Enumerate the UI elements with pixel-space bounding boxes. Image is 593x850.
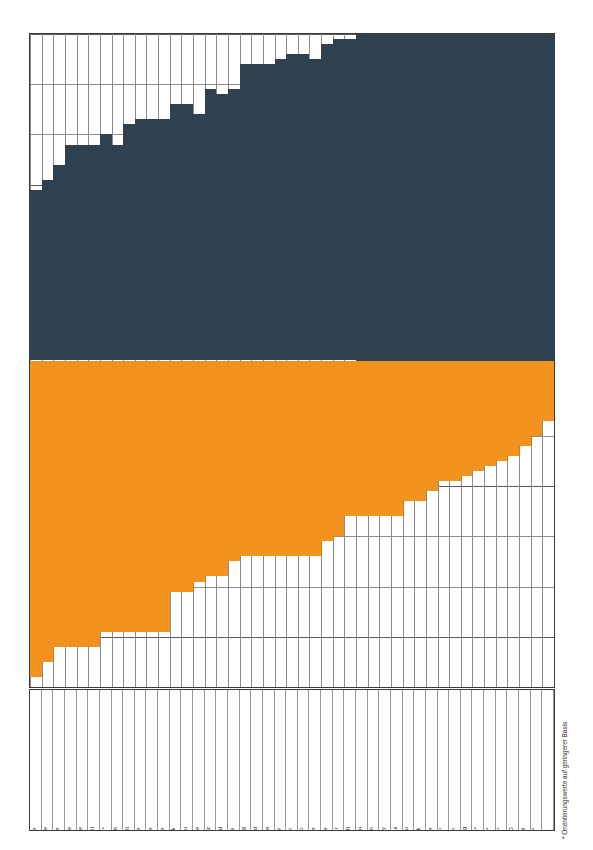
bar-column: [507, 34, 519, 687]
bar-segment-upper: [65, 145, 77, 361]
bar-segment-upper: [391, 33, 403, 361]
bar-column: [484, 34, 496, 687]
category-label-cell: Echo der Frau: [193, 690, 205, 830]
category-label-cell: Gong: [472, 690, 484, 830]
category-label-cell: Popcorn*: [496, 690, 508, 830]
category-label: Sport Illustrierte*: [473, 827, 484, 831]
bar-segment-lower: [100, 361, 112, 632]
bar-column: [542, 34, 554, 687]
category-label: Penthouse: [427, 827, 438, 831]
category-label-cell: Sport Illustrierte*: [484, 690, 496, 830]
category-label: Frau mit Herz: [206, 827, 217, 831]
bar-segment-lower: [391, 361, 403, 517]
bar-segment-upper: [321, 44, 333, 360]
bar-segment-upper: [77, 145, 89, 361]
category-label-cell: Bild der Wissenschaft: [356, 690, 368, 830]
category-label-cell: Ein Herz für Tiere: [88, 690, 100, 830]
category-label: Freizeit Revue: [54, 827, 65, 831]
category-label: Neue Revue: [159, 827, 170, 831]
category-label: Rallye Racing*: [101, 827, 112, 831]
category-label: Musik Express/Sounds*: [532, 827, 543, 831]
bar-column: [333, 34, 345, 687]
bar-segment-lower: [181, 361, 193, 592]
bar-segment-upper: [263, 64, 275, 360]
bar-segment-lower: [53, 361, 65, 647]
category-label: Playboy: [380, 827, 391, 831]
bar-column: [123, 34, 135, 687]
bar-segment-lower: [542, 361, 554, 421]
bar-column: [240, 34, 252, 687]
category-label-cell: Das Neue: [42, 690, 54, 830]
bar-segment-upper: [228, 89, 240, 360]
category-label: Bildwoche: [310, 827, 321, 831]
category-label: Das Goldene Blatt: [113, 827, 124, 831]
category-label-cell: Hörzu: [414, 690, 426, 830]
category-label-cell: Wochenend: [228, 690, 240, 830]
category-label: P.M. Magazin: [450, 827, 461, 831]
bar-segment-upper: [461, 33, 473, 361]
bar-segment-lower: [77, 361, 89, 647]
category-label-cell: Quick: [181, 690, 193, 830]
bar-segment-upper: [496, 33, 508, 361]
bar-column: [472, 34, 484, 687]
bar-column: [53, 34, 65, 687]
bar-segment-upper: [193, 114, 205, 360]
bar-segment-upper: [251, 64, 263, 360]
category-label-cell: Neue Welt: [135, 690, 147, 830]
category-label-cell: Das Beste: [146, 690, 158, 830]
bar-segment-upper: [170, 104, 182, 360]
category-label-cell: Penthouse: [438, 690, 450, 830]
bar-segment-upper: [379, 33, 391, 361]
bar-segment-upper: [53, 165, 65, 361]
category-label: Funk Uhr: [334, 827, 345, 831]
category-label: Gong: [462, 827, 473, 831]
bar-segment-lower: [170, 361, 182, 592]
bar-segment-lower: [88, 361, 100, 647]
bar-segment-upper: [112, 145, 124, 361]
category-label-cell: Das Goldene Blatt: [123, 690, 135, 830]
bar-segment-lower: [228, 361, 240, 562]
bar-column: [88, 34, 100, 687]
bar-segment-lower: [298, 361, 310, 557]
bar-segment-lower: [205, 361, 217, 577]
category-label-cell: Bild + Funk: [426, 690, 438, 830]
bar-segment-lower: [193, 361, 205, 582]
category-label: Bild der Wissenschaft: [345, 827, 356, 831]
bar-column: [356, 34, 368, 687]
category-label-cell: Hobby: [286, 690, 298, 830]
category-label: Bild am Sonntag: [241, 827, 252, 831]
bar-segment-upper: [181, 104, 193, 360]
bar-segment-upper: [88, 145, 100, 361]
category-label: Bravo*: [497, 827, 508, 831]
bar-column: [100, 34, 112, 687]
bar-segment-upper: [146, 119, 158, 360]
bar-segment-lower: [496, 361, 508, 461]
category-label: Die Aktuelle: [66, 827, 77, 831]
bar-column: [531, 34, 543, 687]
category-label-cell: Weltbild: [263, 690, 275, 830]
bar-segment-lower: [263, 361, 275, 557]
category-label-cell: Funk Uhr: [344, 690, 356, 830]
category-label-cell: Freizeit Revue: [65, 690, 77, 830]
bar-column: [426, 34, 438, 687]
bar-segment-upper: [531, 33, 543, 361]
category-label-cell: Playboy: [391, 690, 403, 830]
magazine-readership-chart: Das Neue BlattDas NeuePralineFreizeit Re…: [0, 0, 593, 850]
category-label-cell: Neue Post: [100, 690, 112, 830]
bar-column: [403, 34, 415, 687]
category-label-cell: 7 Tage: [158, 690, 170, 830]
category-label-cell: Bravo*: [507, 690, 519, 830]
bar-segment-upper: [123, 124, 135, 360]
category-label: Wochenend: [217, 827, 228, 831]
category-label: Fernsehwoche: [264, 827, 275, 831]
category-label: Hörzu: [404, 827, 415, 831]
category-label-cell: Die Zwei: [368, 690, 380, 830]
bar-column: [368, 34, 380, 687]
bar-segment-lower: [379, 361, 391, 517]
category-label: TV Hören + Sehen: [369, 827, 380, 831]
bar-segment-lower: [123, 361, 135, 632]
bar-column: [519, 34, 531, 687]
category-label: Tempo: [299, 827, 310, 831]
bar-segment-upper: [30, 190, 42, 361]
bar-segment-upper: [449, 33, 461, 361]
